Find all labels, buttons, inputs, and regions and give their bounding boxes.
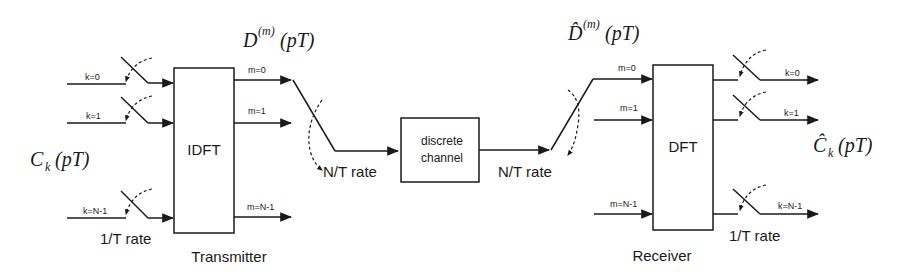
tx-input-label-k0: k=0 xyxy=(85,72,100,82)
rx-output-label-k0: k=0 xyxy=(785,68,800,78)
idft-output-m0: m=0 xyxy=(234,65,291,80)
idft-output-label-m0: m=0 xyxy=(248,65,266,75)
dm-arg: (pT) xyxy=(280,29,315,52)
ck-base: C xyxy=(30,148,44,170)
dft-input-label-m1: m=1 xyxy=(620,103,638,113)
commutator-rotation-arrow-icon xyxy=(568,90,579,155)
switch-rotation-arrow-icon xyxy=(126,58,152,81)
output-symbol-dm: D (m) (pT) xyxy=(242,24,315,52)
dft-input-label-mN1: m=N-1 xyxy=(610,199,637,209)
ck-sub: k xyxy=(45,160,51,174)
receiver-caption: Receiver xyxy=(632,247,691,264)
tx-commutator-switch: N/T rate xyxy=(293,80,398,180)
dft-block-label: DFT xyxy=(668,138,697,155)
input-symbol-ck: C k (pT) xyxy=(30,148,90,174)
dm-base: D xyxy=(242,29,258,51)
idft-output-label-mN1: m=N-1 xyxy=(247,202,274,212)
rx-commutator-switch xyxy=(551,79,593,155)
input-symbol-dhat: D̂ (m) (pT) xyxy=(567,17,640,45)
idft-output-label-m1: m=1 xyxy=(248,106,266,116)
dhat-arg: (pT) xyxy=(605,22,640,45)
dft-input-m1: m=1 xyxy=(594,103,652,120)
output-symbol-ckhat: Ĉ k (pT) xyxy=(813,133,873,160)
tx-input-switch-k0: k=0 xyxy=(67,57,173,84)
rx-output-label-k1: k=1 xyxy=(784,108,799,118)
rx-commutator-rate-label: N/T rate xyxy=(498,163,552,180)
tx-input-switch-kN1: k=N-1 xyxy=(67,189,173,218)
transmitter-caption: Transmitter xyxy=(191,248,266,265)
tx-input-label-k1: k=1 xyxy=(86,111,101,121)
idft-output-m1: m=1 xyxy=(234,106,291,123)
tx-commutator-rate-label: N/T rate xyxy=(323,163,377,180)
dft-input-label-m0: m=0 xyxy=(618,63,636,73)
rx-output-switch-kN1: k=N-1 xyxy=(713,185,818,214)
receiver-section: N/T rate D̂ (m) (pT) m=0 m=1 m=N-1 DFT R… xyxy=(498,17,873,264)
tx-input-rate-label: 1/T rate xyxy=(100,230,151,247)
tx-input-label-kN1: k=N-1 xyxy=(83,206,107,216)
rx-output-label-kN1: k=N-1 xyxy=(778,201,802,211)
ck-arg: (pT) xyxy=(55,148,90,171)
idft-output-mN1: m=N-1 xyxy=(234,202,291,217)
channel-label-line2: channel xyxy=(421,151,463,165)
tx-input-switch-k1: k=1 xyxy=(67,96,173,123)
ckhat-arg: (pT) xyxy=(838,134,873,157)
dft-input-mN1: m=N-1 xyxy=(594,199,652,214)
switch-rotation-arrow-icon xyxy=(740,92,766,116)
rx-output-switch-k0: k=0 xyxy=(713,50,818,80)
transmitter-section: C k (pT) k=0 k=1 k=N-1 1/T r xyxy=(30,24,398,265)
rx-output-rate-label: 1/T rate xyxy=(729,227,780,244)
switch-rotation-arrow-icon xyxy=(740,50,766,76)
dm-sup: (m) xyxy=(258,24,275,38)
switch-rotation-arrow-icon xyxy=(126,189,152,214)
ckhat-base: Ĉ xyxy=(813,133,827,156)
ckhat-sub: k xyxy=(828,146,834,160)
switch-rotation-arrow-icon xyxy=(126,96,152,120)
channel-label-line1: discrete xyxy=(421,134,463,148)
ofdm-block-diagram: C k (pT) k=0 k=1 k=N-1 1/T r xyxy=(0,0,906,279)
rx-output-switch-k1: k=1 xyxy=(713,92,818,120)
dft-input-m0: m=0 xyxy=(593,63,652,79)
discrete-channel-block xyxy=(401,118,479,182)
dhat-base: D̂ xyxy=(567,22,583,44)
switch-rotation-arrow-icon xyxy=(740,185,766,210)
idft-block-label: IDFT xyxy=(187,141,220,158)
dhat-sup: (m) xyxy=(583,17,600,31)
